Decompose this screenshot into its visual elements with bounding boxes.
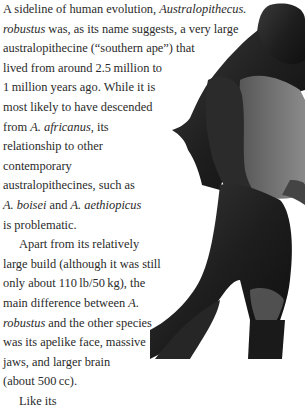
text-run: australopithecines, such as — [3, 178, 135, 192]
text-run: jaws, and larger brain — [3, 355, 110, 369]
text-run: A sideline of human evolution, — [3, 2, 159, 16]
text-line: A. boisei and A. aethiopicus — [3, 196, 246, 216]
text-run: large build (although it was still — [3, 257, 161, 271]
text-run: is problematic. — [3, 218, 77, 232]
text-run: relationship to other — [3, 139, 103, 153]
text-run: 1 million years ago. While it is — [3, 80, 155, 94]
text-run: was its apelike face, massive — [3, 335, 146, 349]
text-run: main difference between — [3, 296, 128, 310]
species-name: A. boisei — [3, 198, 46, 212]
text-line: large build (although it was still — [3, 255, 246, 275]
text-line: australopithecines, such as — [3, 176, 246, 196]
text-run: was, as its name suggests, a very large — [45, 22, 238, 36]
text-line: robustus was, as its name suggests, a ve… — [3, 20, 246, 40]
text-line: main difference between A. — [3, 294, 246, 314]
text-line: contemporary — [3, 157, 246, 177]
text-line: is problematic. — [3, 216, 246, 236]
species-name: A. aethiopicus — [70, 198, 141, 212]
text-line: (about 500 cc). — [3, 372, 246, 392]
text-line: Apart from its relatively — [3, 235, 246, 255]
text-run: most likely to have descended — [3, 100, 152, 114]
text-line: only about 110 lb/50 kg), the — [3, 274, 246, 294]
text-line: Like its — [3, 392, 246, 409]
species-name: robustus — [3, 316, 45, 330]
species-name: A. africanus, — [30, 120, 94, 134]
text-line: 1 million years ago. While it is — [3, 78, 246, 98]
species-name: Australopithecus. — [159, 2, 246, 16]
text-line: lived from around 2.5 million to — [3, 59, 246, 79]
text-run: Like its — [19, 394, 57, 408]
species-name: robustus — [3, 22, 45, 36]
text-line: relationship to other — [3, 137, 246, 157]
text-run: lived from around 2.5 million to — [3, 61, 162, 75]
text-line: A sideline of human evolution, Australop… — [3, 0, 246, 20]
text-run: australopithecine (“southern ape”) that — [3, 41, 195, 55]
text-run: Apart from its relatively — [19, 237, 139, 251]
text-run: (about 500 cc). — [3, 374, 77, 388]
text-line: robustus and the other species — [3, 314, 246, 334]
article-body: A sideline of human evolution, Australop… — [3, 0, 246, 409]
text-line: jaws, and larger brain — [3, 353, 246, 373]
text-line: was its apelike face, massive — [3, 333, 246, 353]
text-run: contemporary — [3, 159, 72, 173]
text-run: from — [3, 120, 30, 134]
text-run: only about 110 lb/50 kg), the — [3, 276, 145, 290]
text-run: its — [94, 120, 109, 134]
text-run: and the other species — [45, 316, 152, 330]
text-line: most likely to have descended — [3, 98, 246, 118]
species-name: A. — [128, 296, 139, 310]
text-run: and — [46, 198, 70, 212]
text-line: australopithecine (“southern ape”) that — [3, 39, 246, 59]
text-line: from A. africanus, its — [3, 118, 246, 138]
